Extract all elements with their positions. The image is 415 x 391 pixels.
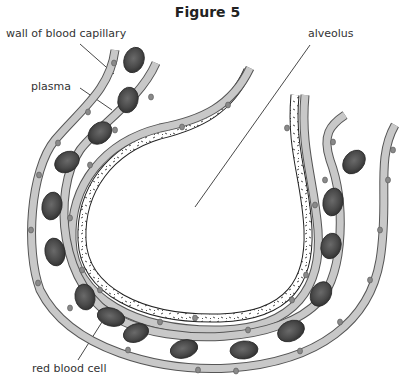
- red-blood-cell: [120, 44, 148, 75]
- red-blood-cell: [229, 340, 258, 360]
- alveolus-wall: [82, 70, 308, 318]
- alveolus-capillary-diagram: [0, 0, 415, 391]
- red-blood-cell: [338, 146, 370, 179]
